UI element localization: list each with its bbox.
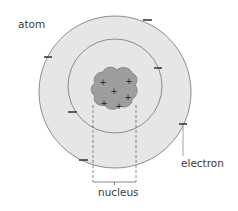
atom-label: atom [18,19,45,30]
nucleus-label: nucleus [98,187,139,198]
nucleus-bracket [93,180,136,185]
proton-plus-icon: + [124,92,132,102]
proton-plus-icon: + [100,98,108,108]
electron-label: electron [181,158,224,169]
proton-plus-icon: + [110,86,118,96]
nucleus: + + + + + + [91,67,137,111]
proton-plus-icon: + [99,77,107,87]
proton-plus-icon: + [125,76,133,86]
proton-plus-icon: + [115,101,123,111]
atom-diagram: + + + + + + [0,0,238,211]
